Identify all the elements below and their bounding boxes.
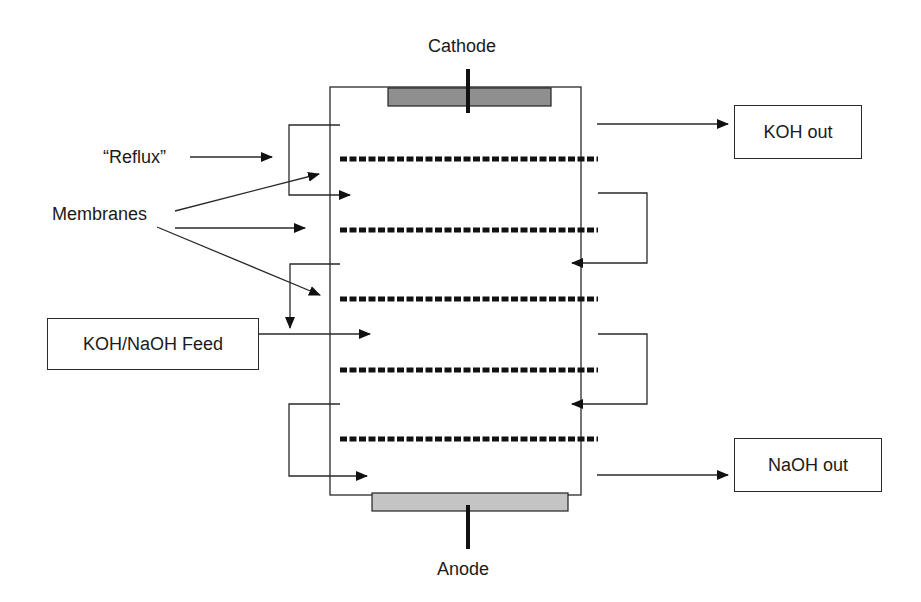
membranes (340, 159, 598, 439)
membranes-pointer-3 (157, 227, 320, 295)
feed-box: KOH/NaOH Feed (47, 318, 259, 370)
cathode-label: Cathode (428, 36, 496, 56)
reflux-label: “Reflux” (103, 147, 166, 167)
naoh-out-box: NaOH out (734, 438, 882, 492)
membranes-pointer-1 (175, 174, 319, 211)
membranes-label: Membranes (52, 204, 147, 224)
reflux-loop-middle (290, 264, 340, 328)
koh-out-box: KOH out (734, 105, 862, 159)
anode-label: Anode (437, 559, 489, 579)
electrolysis-cell-diagram (0, 0, 921, 602)
cell-container (330, 87, 581, 495)
